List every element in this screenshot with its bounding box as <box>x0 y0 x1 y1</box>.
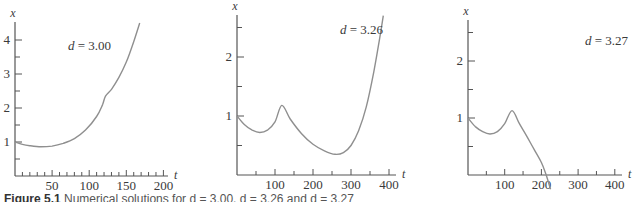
x-tick-label: 400 <box>605 177 625 192</box>
y-axis-label: x <box>231 0 238 13</box>
figure-caption: Figure 5.1 Numerical solutions for d = 3… <box>4 192 354 202</box>
y-tick-label: 4 <box>4 32 11 47</box>
x-axis-label: t <box>402 167 406 181</box>
y-tick-label: 1 <box>4 134 11 149</box>
y-axis-label: x <box>462 4 469 18</box>
x-axis-label: t <box>174 168 178 182</box>
x-tick-label: 200 <box>154 178 174 193</box>
y-tick-label: 2 <box>226 49 233 64</box>
figure-caption-text: Numerical solutions for d = 3.00, d = 3.… <box>64 192 354 202</box>
plot-panel-d-3-00: 501001502001234xtd = 3.00 <box>4 6 179 193</box>
x-tick-label: 100 <box>79 178 99 193</box>
curve-annotation: d = 3.26 <box>340 22 384 37</box>
y-tick-label: 1 <box>457 110 464 125</box>
x-axis-label: t <box>628 167 632 181</box>
plot-panel-d-3-26: 10020030040012xtd = 3.26 <box>226 0 407 192</box>
y-tick-label: 1 <box>226 108 233 123</box>
x-tick-label: 300 <box>568 177 588 192</box>
figure-caption-label: Figure 5.1 <box>4 192 61 202</box>
x-tick-label: 150 <box>117 178 137 193</box>
figure-canvas: 501001502001234xtd = 3.00 10020030040012… <box>0 0 635 202</box>
x-tick-label: 400 <box>379 177 399 192</box>
plot-panel-d-3-27: 10020030040012xtd = 3.27 <box>457 4 633 192</box>
curve-annotation: d = 3.00 <box>68 38 111 53</box>
x-tick-label: 100 <box>265 177 285 192</box>
x-tick-label: 200 <box>303 177 323 192</box>
x-tick-label: 300 <box>341 177 361 192</box>
y-tick-label: 2 <box>457 53 464 68</box>
curve-annotation: d = 3.27 <box>585 33 629 48</box>
y-tick-label: 3 <box>4 66 11 81</box>
y-axis-label: x <box>9 6 16 20</box>
x-tick-label: 100 <box>495 177 515 192</box>
y-tick-label: 2 <box>4 100 11 115</box>
x-tick-label: 50 <box>46 178 59 193</box>
